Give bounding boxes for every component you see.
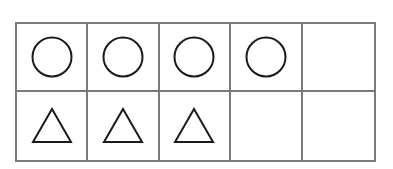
grid-cell-r2-c1	[17, 92, 88, 160]
grid-cell-r2-c2	[88, 92, 159, 160]
grid-cell-r1-c2	[88, 24, 159, 92]
circle-icon	[172, 35, 216, 79]
circle-icon	[101, 35, 145, 79]
grid-cell-r2-c4	[231, 92, 302, 160]
grid-cell-r1-c4	[231, 24, 302, 92]
grid-cell-r1-c3	[160, 24, 231, 92]
triangle-icon	[102, 107, 144, 145]
triangle-icon	[31, 107, 73, 145]
grid-cell-r2-c3	[160, 92, 231, 160]
grid-cell-r1-c5	[303, 24, 374, 92]
grid-cell-r2-c5	[303, 92, 374, 160]
circle-icon	[30, 35, 74, 79]
ten-frame-grid	[15, 22, 376, 162]
triangle-icon	[173, 107, 215, 145]
circle-icon	[244, 35, 288, 79]
grid-cell-r1-c1	[17, 24, 88, 92]
